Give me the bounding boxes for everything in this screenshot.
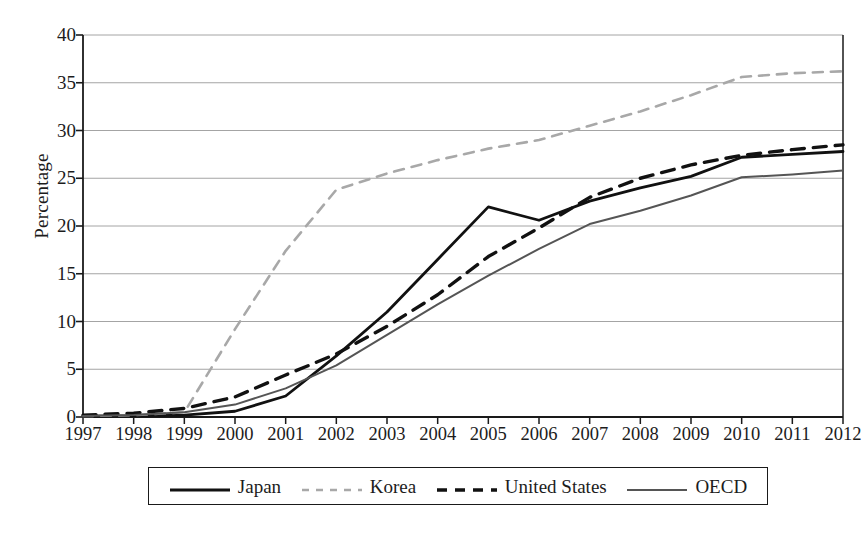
dashed-black-line-swatch: [436, 481, 498, 491]
x-axis-tick-labels: 1997199819992000200120022003200420052006…: [0, 424, 867, 450]
series-line-korea: [83, 71, 843, 416]
legend-label: United States: [505, 477, 607, 496]
legend-item-japan[interactable]: Japan: [169, 477, 281, 496]
y-axis-tick-marks: [76, 35, 83, 417]
legend-label: Japan: [238, 477, 281, 496]
legend-item-united-states[interactable]: United States: [436, 477, 607, 496]
dashed-gray-line-swatch: [301, 481, 363, 491]
series-line-oecd: [83, 171, 843, 416]
legend-item-korea[interactable]: Korea: [301, 477, 416, 496]
plot-canvas: [0, 0, 867, 533]
solid-thin-gray-line-swatch: [626, 481, 688, 491]
x-tick-label: 2012: [813, 424, 867, 444]
series-line-united-states: [83, 145, 843, 415]
x-axis-tick-marks: [83, 417, 843, 424]
data-series-layer: [83, 71, 843, 416]
gridlines: [83, 35, 843, 417]
legend-label: Korea: [370, 477, 416, 496]
legend-item-oecd[interactable]: OECD: [626, 477, 747, 496]
chart-legend: JapanKoreaUnited StatesOECD: [148, 467, 768, 505]
solid-thick-black-line-swatch: [169, 481, 231, 491]
series-line-japan: [83, 152, 843, 417]
legend-label: OECD: [695, 477, 747, 496]
chart-figure: Percentage 0510152025303540 199719981999…: [0, 0, 867, 533]
